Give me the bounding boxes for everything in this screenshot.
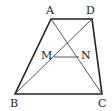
trapezoid-diagram: A D M N B C bbox=[0, 0, 112, 111]
diagonal-ac bbox=[51, 19, 102, 94]
label-c: C bbox=[98, 97, 106, 110]
label-b: B bbox=[10, 97, 18, 110]
label-d: D bbox=[86, 4, 95, 17]
label-n: N bbox=[81, 49, 91, 62]
label-m: M bbox=[41, 49, 52, 62]
label-a: A bbox=[45, 4, 55, 17]
